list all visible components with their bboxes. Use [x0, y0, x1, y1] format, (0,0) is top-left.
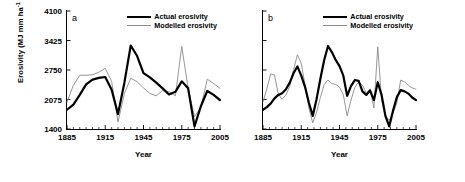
panel-a-letter: a [72, 13, 77, 23]
y-tick-4100: 4100 [44, 7, 62, 16]
panel-b-letter: b [268, 13, 273, 23]
y-axis-ticks: 14002075275034254100 [26, 10, 62, 130]
panel-b: b Actual erosivityModelled erosivity [262, 10, 417, 130]
panel-b-x-ticks: 18851915194519752005 [262, 133, 417, 145]
legend-label-model: Modelled erosivity [350, 21, 413, 30]
x-tick-1975: 1975 [369, 133, 387, 142]
panel-b-legend: Actual erosivityModelled erosivity [323, 12, 413, 30]
y-axis-label-mid1: h [16, 0, 25, 2]
panel-a-legend: Actual erosivityModelled erosivity [127, 12, 217, 30]
panel-a-x-ticks: 18851915194519752005 [66, 133, 221, 145]
legend-item-model: Modelled erosivity [127, 21, 217, 30]
x-tick-1945: 1945 [135, 133, 153, 142]
panel-b-x-axis-label: Year [331, 150, 348, 159]
legend-item-model: Modelled erosivity [323, 21, 413, 30]
y-axis-exponent-1: -1 [15, 2, 21, 7]
legend-swatch-actual [323, 16, 347, 18]
x-tick-1975: 1975 [173, 133, 191, 142]
x-tick-1885: 1885 [58, 133, 76, 142]
legend-label-model: Modelled erosivity [154, 21, 217, 30]
x-tick-1885: 1885 [254, 133, 272, 142]
figure-erosivity-timeseries: Erosivity (MJ mm ha-1 h-1 y-1) 140020752… [0, 0, 465, 182]
panel-a: a Actual erosivityModelled erosivity [66, 10, 221, 130]
y-tick-3425: 3425 [44, 36, 62, 45]
x-tick-1915: 1915 [292, 133, 310, 142]
legend-swatch-model [323, 25, 347, 26]
legend-swatch-model [127, 25, 151, 26]
legend-label-actual: Actual erosivity [350, 12, 404, 21]
y-tick-2750: 2750 [44, 66, 62, 75]
legend-item-actual: Actual erosivity [127, 12, 217, 21]
x-tick-1915: 1915 [96, 133, 114, 142]
x-tick-2005: 2005 [407, 133, 425, 142]
y-tick-2075: 2075 [44, 95, 62, 104]
x-tick-2005: 2005 [211, 133, 229, 142]
y-axis-label-prefix: Erosivity (MJ mm ha [16, 7, 25, 83]
legend-swatch-actual [127, 16, 151, 18]
x-tick-1945: 1945 [331, 133, 349, 142]
legend-label-actual: Actual erosivity [154, 12, 208, 21]
legend-item-actual: Actual erosivity [323, 12, 413, 21]
y-axis-label: Erosivity (MJ mm ha-1 h-1 y-1) [15, 0, 26, 94]
panel-a-x-axis-label: Year [135, 150, 152, 159]
